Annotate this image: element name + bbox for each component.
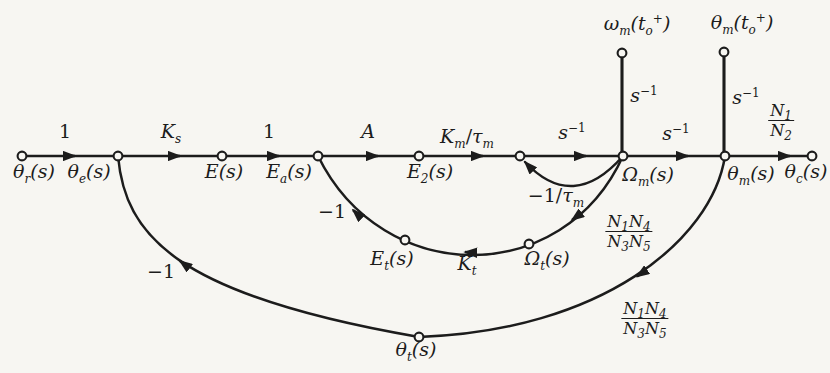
label-node-theta-c: θc(s) — [785, 161, 828, 182]
n1n4-upper-numerator: N1N4 — [605, 213, 652, 232]
signal-flow-graph-figure: 1 Ks 1 A Km/τm s−1 s−1 N1 N2 θr(s) θe(s)… — [0, 0, 830, 373]
n1n4-lower-numerator: N1N4 — [621, 300, 668, 319]
n1n4-upper-denominator: N3N5 — [605, 232, 652, 250]
label-gain-minus-1-inner: −1 — [318, 201, 346, 222]
label-gain-s-inverse-1: s−1 — [558, 122, 585, 143]
node-theta-m — [721, 152, 730, 161]
label-node-omega-m: Ωm(s) — [622, 164, 674, 185]
label-gain-a: A — [361, 121, 375, 142]
n1n2-numerator: N1 — [768, 102, 794, 121]
label-gain-1-first: 1 — [59, 121, 71, 142]
n1n2-denominator: N2 — [768, 121, 794, 139]
label-gain-s-inverse-2: s−1 — [662, 123, 689, 144]
label-gain-ks: Ks — [161, 121, 181, 142]
label-gain-n1n4-over-n3n5-upper: N1N4 N3N5 — [605, 213, 652, 251]
node-omega-m — [619, 152, 628, 161]
label-node-omega-t: Ωt(s) — [524, 248, 569, 269]
label-gain-kt: Kt — [457, 253, 476, 274]
arrow-theta-t-to-theta-e — [180, 261, 186, 265]
label-node-theta-e: θe(s) — [67, 161, 110, 182]
label-ic-gain-s-inverse-left: s−1 — [630, 85, 657, 106]
node-theta-e — [114, 152, 123, 161]
graph-canvas — [0, 0, 830, 373]
label-node-theta-t: θt(s) — [396, 339, 437, 360]
nodes — [18, 48, 817, 342]
label-node-e-a: Ea(s) — [266, 161, 312, 182]
node-e-t — [401, 236, 410, 245]
arrow-omega-m-to-omega-t — [572, 216, 578, 220]
label-node-e-t: Et(s) — [370, 248, 413, 269]
node-junction — [516, 152, 525, 161]
label-node-theta-m: θm(s) — [727, 163, 774, 184]
label-gain-minus-1-outer: −1 — [147, 261, 175, 282]
label-gain-km-over-tau: Km/τm — [440, 126, 494, 147]
label-gain-n1-over-n2: N1 N2 — [768, 102, 794, 140]
label-gain-1-second: 1 — [263, 121, 275, 142]
label-node-theta-r: θr(s) — [13, 161, 55, 182]
label-ic-omega-m: ωm(to+) — [604, 13, 671, 34]
label-gain-n1n4-over-n3n5-lower: N1N4 N3N5 — [621, 300, 668, 338]
node-ic-omega — [618, 49, 627, 58]
label-node-e: E(s) — [205, 161, 243, 182]
n1n4-lower-denominator: N3N5 — [621, 319, 668, 337]
label-node-e-2: E2(s) — [407, 161, 453, 182]
label-ic-theta-m: θm(to+) — [711, 12, 774, 33]
node-e-a — [314, 152, 323, 161]
edges — [22, 55, 812, 337]
label-gain-minus-1-over-tau: −1/τm — [528, 185, 584, 206]
label-ic-gain-s-inverse-right: s−1 — [732, 87, 759, 108]
node-ic-theta — [720, 48, 729, 57]
